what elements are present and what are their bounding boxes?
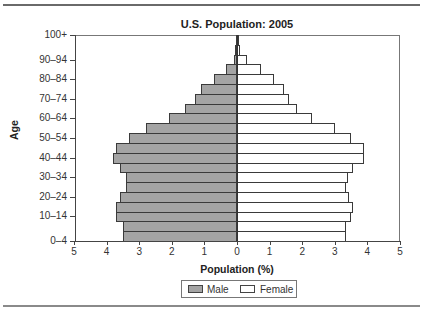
x-tick — [270, 241, 271, 245]
x-axis-title: Population (%) — [0, 263, 422, 275]
x-tick-label: 0 — [227, 246, 247, 257]
y-tick-label: 30–34 — [10, 171, 67, 182]
male-bar — [126, 182, 237, 193]
x-tick-label: 2 — [292, 246, 312, 257]
female-bar — [237, 133, 351, 144]
male-bar — [195, 94, 237, 105]
y-tick-label: 0–4 — [10, 235, 67, 246]
legend-male-label: Male — [207, 284, 229, 295]
female-bar — [237, 74, 274, 85]
x-tick-label: 4 — [97, 246, 117, 257]
female-bar — [237, 192, 349, 203]
male-bar — [226, 64, 237, 75]
top-rule — [3, 4, 420, 6]
y-tick — [70, 216, 75, 217]
male-bar — [201, 84, 237, 95]
female-bar — [237, 212, 351, 223]
male-bar — [185, 104, 237, 115]
female-bar — [237, 55, 247, 66]
x-tick — [172, 241, 173, 245]
male-bar — [126, 172, 237, 183]
y-tick — [70, 177, 75, 178]
y-tick-label: 40–44 — [10, 152, 67, 163]
female-bar — [237, 64, 261, 75]
female-bar — [237, 94, 289, 105]
legend-female-label: Female — [260, 284, 293, 295]
x-tick — [204, 241, 205, 245]
y-tick — [70, 118, 75, 119]
male-bar — [146, 123, 237, 134]
y-axis-line — [75, 35, 76, 242]
y-tick — [70, 79, 75, 80]
x-tick-label: 5 — [390, 246, 410, 257]
female-bar — [237, 163, 353, 174]
female-bar — [237, 153, 364, 164]
male-bar — [123, 221, 237, 232]
female-bar — [237, 104, 297, 115]
female-bar — [237, 172, 348, 183]
female-bar — [237, 123, 335, 134]
y-axis-title: Age — [8, 120, 20, 140]
x-tick — [335, 241, 336, 245]
x-tick-label: 1 — [194, 246, 214, 257]
female-bar — [237, 113, 312, 124]
x-tick — [107, 241, 108, 245]
female-bar — [237, 182, 346, 193]
x-tick-label: 1 — [260, 246, 280, 257]
y-tick — [70, 35, 75, 36]
y-tick — [70, 197, 75, 198]
male-bar — [120, 192, 237, 203]
male-bar — [169, 113, 237, 124]
x-tick — [400, 241, 401, 245]
center-axis-line — [237, 35, 238, 241]
x-tick-label: 5 — [64, 246, 84, 257]
male-bar — [129, 133, 237, 144]
female-bar — [237, 221, 346, 232]
y-tick — [70, 99, 75, 100]
y-tick-label: 90–94 — [10, 54, 67, 65]
male-bar — [214, 74, 237, 85]
x-tick-label: 4 — [357, 246, 377, 257]
y-tick-label: 70–74 — [10, 93, 67, 104]
x-tick — [237, 241, 238, 245]
male-bar — [116, 212, 237, 223]
bottom-rule — [3, 305, 420, 307]
y-tick-label: 80–84 — [10, 73, 67, 84]
y-tick — [70, 60, 75, 61]
y-tick-label: 100+ — [10, 29, 67, 40]
y-tick-label: 20–24 — [10, 191, 67, 202]
male-bar — [120, 163, 237, 174]
legend: Male Female — [181, 280, 297, 298]
legend-female-swatch — [240, 285, 255, 293]
female-bar — [237, 202, 353, 213]
x-tick-label: 2 — [162, 246, 182, 257]
x-tick — [74, 241, 75, 245]
x-tick-label: 3 — [129, 246, 149, 257]
male-bar — [116, 202, 237, 213]
y-tick — [70, 138, 75, 139]
y-tick — [70, 158, 75, 159]
male-bar — [113, 153, 237, 164]
female-bar — [237, 143, 364, 154]
y-tick-label: 10–14 — [10, 210, 67, 221]
female-bar — [237, 84, 284, 95]
x-tick — [302, 241, 303, 245]
x-tick — [367, 241, 368, 245]
legend-male-swatch — [188, 285, 203, 293]
x-tick — [139, 241, 140, 245]
male-bar — [116, 143, 237, 154]
x-tick-label: 3 — [325, 246, 345, 257]
